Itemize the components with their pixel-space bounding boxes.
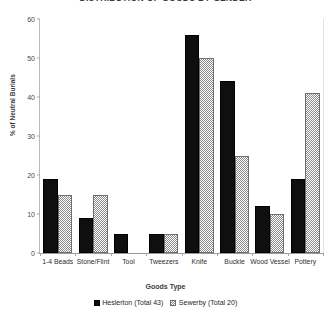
y-axis-tick-mark xyxy=(37,175,40,176)
bar xyxy=(220,81,235,253)
bar xyxy=(114,234,129,254)
bar-chart-figure: DISTRIBUTION OF GOODS BY GENDER % of Neu… xyxy=(0,0,331,318)
bar xyxy=(291,179,306,253)
plot-area: 0102030405060 1-4 BeadsStone/FlintToolTw… xyxy=(39,19,324,254)
legend-label: Heslerton (Total 43) xyxy=(102,299,163,306)
bar xyxy=(43,179,58,253)
bar xyxy=(58,195,73,254)
bar xyxy=(270,214,285,253)
y-axis-tick-label: 40 xyxy=(27,94,35,101)
x-axis-tick-label: Pottery xyxy=(283,258,327,267)
bar xyxy=(255,206,270,253)
bar xyxy=(149,234,164,254)
y-axis-tick-label: 30 xyxy=(27,133,35,140)
x-axis-tick-mark xyxy=(288,253,289,256)
legend-entry: Heslerton (Total 43) xyxy=(94,299,164,306)
y-axis-title: % of Neutral Burials xyxy=(9,74,16,136)
y-axis-tick-label: 50 xyxy=(27,55,35,62)
y-axis-tick-mark xyxy=(37,214,40,215)
legend-entry: Sewerby (Total 20) xyxy=(170,299,237,306)
x-axis-tick-mark xyxy=(217,253,218,256)
y-axis-tick-mark xyxy=(37,58,40,59)
bar xyxy=(93,195,108,254)
x-axis-title: Goods Type xyxy=(0,283,331,290)
y-axis-tick-mark xyxy=(37,19,40,20)
bar xyxy=(185,35,200,253)
y-axis-tick-mark xyxy=(37,97,40,98)
bar xyxy=(79,218,94,253)
bar xyxy=(164,234,179,254)
y-axis-tick-mark xyxy=(37,136,40,137)
x-axis-tick-mark xyxy=(182,253,183,256)
y-axis-tick-label: 10 xyxy=(27,211,35,218)
chart-legend: Heslerton (Total 43)Sewerby (Total 20) xyxy=(0,299,331,306)
bar xyxy=(199,58,214,253)
bar xyxy=(305,93,320,253)
x-axis-tick-mark xyxy=(40,253,41,256)
y-axis-tick-label: 20 xyxy=(27,172,35,179)
y-axis-tick-label: 60 xyxy=(27,16,35,23)
x-axis-tick-mark xyxy=(323,253,324,256)
legend-swatch-icon xyxy=(94,300,100,306)
x-axis-tick-mark xyxy=(146,253,147,256)
x-axis-tick-mark xyxy=(75,253,76,256)
x-axis-tick-mark xyxy=(111,253,112,256)
x-axis-tick-mark xyxy=(252,253,253,256)
legend-label: Sewerby (Total 20) xyxy=(179,299,237,306)
legend-swatch-icon xyxy=(170,300,176,306)
chart-title: DISTRIBUTION OF GOODS BY GENDER xyxy=(0,0,331,3)
bar xyxy=(235,156,250,254)
y-axis-tick-label: 0 xyxy=(31,250,35,257)
